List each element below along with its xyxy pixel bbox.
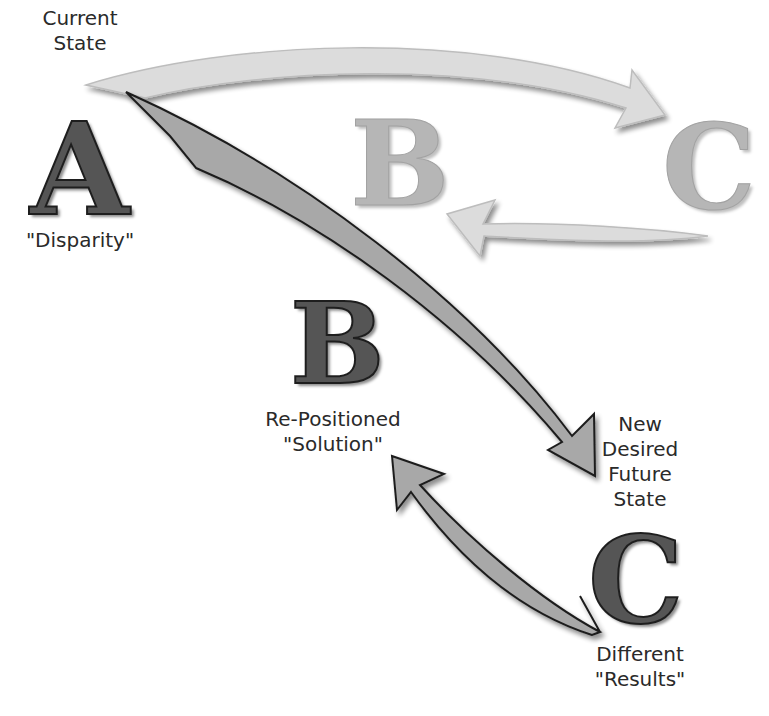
different-results-line-2: "Results" (585, 667, 695, 692)
repositioned-solution-label: Re-Positioned "Solution" (248, 407, 418, 457)
current-state-line-1: Current (30, 6, 130, 31)
new-desired-line-2: Desired (595, 437, 685, 462)
new-desired-future-state-label: New Desired Future State (595, 412, 685, 512)
repositioned-line-1: Re-Positioned (248, 407, 418, 432)
different-results-label: Different "Results" (585, 642, 695, 692)
letter-a: A (30, 105, 129, 233)
new-desired-line-3: Future (595, 462, 685, 487)
new-desired-line-1: New (595, 412, 685, 437)
different-results-line-1: Different (585, 642, 695, 667)
arrow-different-results-to-solution (392, 456, 600, 635)
repositioned-line-2: "Solution" (248, 432, 418, 457)
current-state-line-2: State (30, 31, 130, 56)
letter-b-new: B (290, 288, 385, 400)
letter-b-original: B (350, 105, 450, 223)
current-state-label: Current State (30, 6, 130, 56)
letter-c-original: C (662, 108, 756, 226)
letter-c-new: C (588, 520, 684, 640)
disparity-label: "Disparity" (20, 228, 140, 253)
